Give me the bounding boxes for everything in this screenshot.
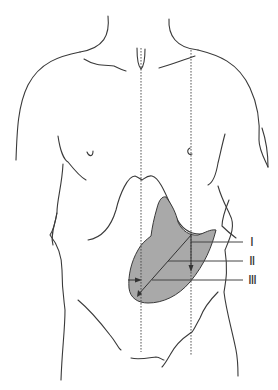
torso-diagram: Ⅰ Ⅱ Ⅲ — [0, 0, 278, 390]
right-shoulder-arm-outline — [198, 50, 268, 167]
left-inguinal-line — [78, 300, 121, 350]
left-nipple — [87, 151, 93, 156]
shaded-organ-region — [129, 197, 216, 303]
neck-right-outline — [169, 19, 198, 50]
neck-left-outline — [80, 16, 108, 52]
label-II: Ⅱ — [249, 253, 255, 268]
left-shoulder-arm-outline — [16, 52, 80, 160]
label-III: Ⅲ — [248, 272, 257, 287]
pubic-line — [131, 357, 164, 360]
right-inguinal-line — [162, 292, 218, 367]
left-torso-outline — [50, 164, 65, 380]
right-axilla-line — [208, 134, 225, 185]
right-clavicle — [159, 56, 195, 68]
left-clavicle — [84, 59, 126, 71]
label-I: Ⅰ — [250, 234, 254, 249]
right-torso-outline — [218, 186, 238, 376]
left-flank-line — [52, 213, 57, 245]
right-flank-line — [222, 200, 236, 238]
